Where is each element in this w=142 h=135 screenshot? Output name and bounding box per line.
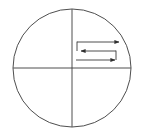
scan-pattern-diagram [0, 0, 142, 135]
figure-background [0, 0, 142, 135]
figure-container [0, 0, 142, 135]
